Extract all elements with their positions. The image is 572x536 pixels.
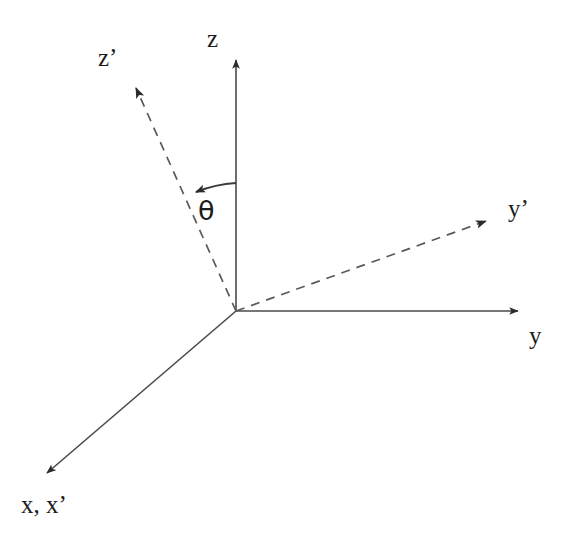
y-axis-label: y [529,323,542,348]
y-prime-axis-line [236,221,486,311]
theta-angle-label: θ [198,197,215,224]
x-axis-line [47,311,236,473]
z-prime-axis-label: z’ [98,45,117,70]
z-axis-label: z [207,26,218,51]
x-and-x-prime-axis-label: x, x’ [21,492,67,517]
rotated-axes-diagram: z z’ y y’ x, x’ θ [0,0,572,536]
z-prime-axis-line [136,88,236,311]
axes-vector-canvas [0,0,572,536]
theta-arc [196,183,236,192]
y-prime-axis-label: y’ [508,196,529,221]
